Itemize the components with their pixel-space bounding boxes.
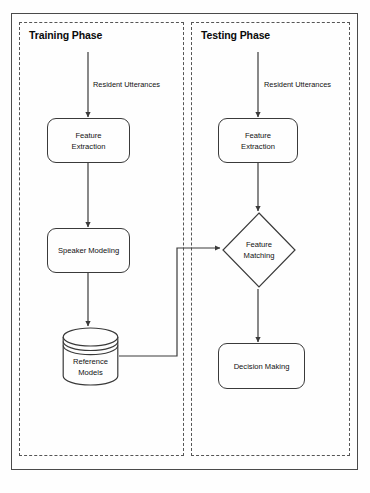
node-label-reference-models: Reference Models — [62, 347, 119, 386]
node-feature-matching[interactable]: Feature Matching — [222, 212, 296, 288]
node-decision-making[interactable]: Decision Making — [218, 343, 305, 389]
node-feature-extraction-testing[interactable]: Feature Extraction — [218, 118, 298, 163]
diagram-canvas: Training Phase Testing Phase Resident Ut… — [0, 0, 370, 493]
node-speaker-modeling[interactable]: Speaker Modeling — [47, 228, 130, 273]
node-label-speaker-modeling: Speaker Modeling — [58, 245, 119, 256]
panel-title-testing-phase: Testing Phase — [201, 29, 270, 41]
node-feature-extraction-training[interactable]: Feature Extraction — [47, 118, 130, 163]
node-label-feature-extraction-training: Feature Extraction — [72, 130, 106, 152]
node-label-feature-extraction-testing: Feature Extraction — [241, 130, 275, 152]
node-reference-models[interactable]: Reference Models — [62, 327, 119, 386]
panel-title-training-phase: Training Phase — [29, 29, 102, 41]
node-label-feature-matching: Feature Matching — [222, 212, 296, 288]
edge-label-resident-utterances-training: Resident Utterances — [93, 80, 160, 89]
node-label-decision-making: Decision Making — [234, 361, 290, 372]
edge-label-resident-utterances-testing: Resident Utterances — [264, 80, 331, 89]
